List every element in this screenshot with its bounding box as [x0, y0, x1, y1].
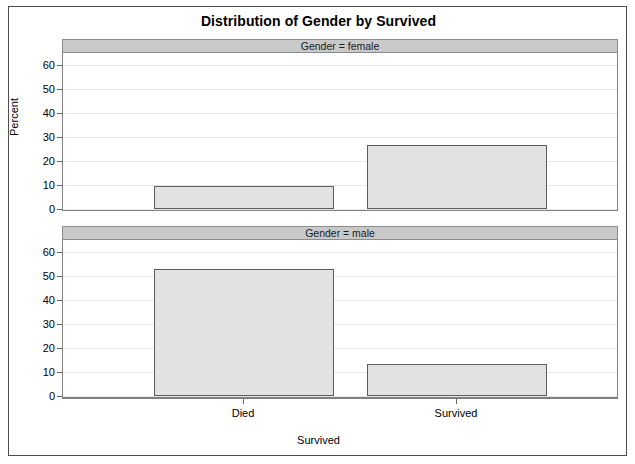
y-tick-mark: [57, 300, 62, 301]
y-tick-mark: [57, 209, 62, 210]
y-tick-label: 40: [15, 108, 55, 118]
x-tick-label-survived: Survived: [396, 407, 516, 419]
x-tick-label-died: Died: [183, 407, 303, 419]
y-tick-label: 0: [15, 204, 55, 214]
y-tick-mark: [57, 161, 62, 162]
y-tick-label: 30: [15, 319, 55, 329]
y-tick-mark: [57, 276, 62, 277]
bar-died-male: [154, 269, 334, 396]
plot-area-male: [62, 240, 618, 398]
x-tick-mark: [243, 399, 244, 404]
y-tick-label: 10: [15, 367, 55, 377]
y-tick-mark: [57, 252, 62, 253]
y-tick-mark: [57, 372, 62, 373]
y-tick-label: 10: [15, 180, 55, 190]
gridline: [63, 252, 617, 253]
y-tick-label: 50: [15, 84, 55, 94]
y-tick-label: 40: [15, 295, 55, 305]
y-tick-mark: [57, 89, 62, 90]
gridline: [63, 113, 617, 114]
y-tick-mark: [57, 137, 62, 138]
y-tick-label: 50: [15, 271, 55, 281]
y-tick-mark: [57, 396, 62, 397]
x-axis-title: Survived: [9, 434, 628, 446]
gridline: [63, 324, 617, 325]
chart-frame: Distribution of Gender by Survived Perce…: [8, 6, 627, 456]
gridline: [63, 300, 617, 301]
gridline: [63, 348, 617, 349]
bar-survived-female: [367, 145, 547, 209]
y-tick-mark: [57, 113, 62, 114]
panel-gender-male: Gender = male: [62, 226, 618, 398]
x-axis-line: [62, 398, 618, 399]
chart-title: Distribution of Gender by Survived: [9, 13, 628, 29]
y-tick-label: 20: [15, 156, 55, 166]
gridline: [63, 209, 617, 210]
gridline: [63, 396, 617, 397]
y-tick-label: 60: [15, 247, 55, 257]
plot-area-female: [62, 53, 618, 211]
panel-strip-label-female: Gender = female: [62, 39, 618, 53]
gridline: [63, 137, 617, 138]
gridline: [63, 89, 617, 90]
y-tick-mark: [57, 348, 62, 349]
y-tick-label: 30: [15, 132, 55, 142]
y-tick-mark: [57, 65, 62, 66]
y-tick-label: 60: [15, 60, 55, 70]
y-tick-label: 0: [15, 391, 55, 401]
gridline: [63, 276, 617, 277]
bar-died-female: [154, 186, 334, 209]
bar-survived-male: [367, 364, 547, 396]
y-tick-mark: [57, 324, 62, 325]
y-tick-mark: [57, 185, 62, 186]
panel-gender-female: Gender = female: [62, 39, 618, 211]
panel-strip-label-male: Gender = male: [62, 226, 618, 240]
gridline: [63, 65, 617, 66]
x-tick-mark: [456, 399, 457, 404]
y-tick-label: 20: [15, 343, 55, 353]
